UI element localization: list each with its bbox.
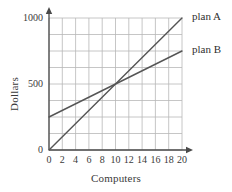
y-tick-label: 1000 xyxy=(9,12,43,23)
y-axis-title: Dollars xyxy=(8,54,20,134)
series-label-1: plan A xyxy=(192,10,221,22)
y-tick-label: 0 xyxy=(9,144,43,155)
y-axis-arrowhead xyxy=(46,7,52,14)
x-tick-label: 20 xyxy=(174,154,190,165)
series-label-2: plan B xyxy=(192,43,221,55)
line-chart-figure: 02468101214161820 05001000 plan Aplan B … xyxy=(0,0,232,192)
x-axis-title: Computers xyxy=(0,172,232,184)
x-axis-arrowhead xyxy=(186,147,193,153)
